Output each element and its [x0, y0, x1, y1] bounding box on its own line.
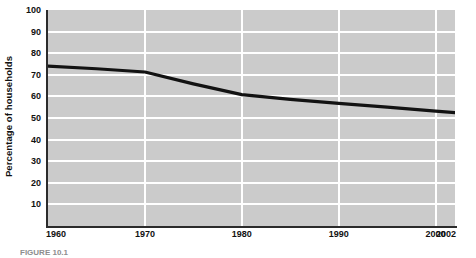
y-axis-tick-label: 20 — [31, 178, 41, 187]
y-axis-title: Percentage of households — [0, 0, 18, 232]
y-axis-spine — [46, 10, 48, 228]
y-axis-tick-label: 30 — [31, 157, 41, 166]
x-axis-tick-label: 1960 — [46, 230, 66, 239]
y-axis-tick-labels: 100908070605040302010 — [18, 10, 44, 226]
plot-area — [48, 10, 455, 226]
line-series-svg — [48, 10, 455, 226]
y-axis-tick-label: 80 — [31, 49, 41, 58]
x-axis-spine — [46, 226, 457, 228]
x-axis-tick-label: 1970 — [135, 230, 155, 239]
x-axis-tick-label: 1980 — [232, 230, 252, 239]
y-axis-tick-label: 50 — [31, 114, 41, 123]
y-axis-title-label: Percentage of households — [4, 55, 15, 176]
y-axis-tick-label: 60 — [31, 92, 41, 101]
y-axis-tick-label: 100 — [26, 6, 41, 15]
y-axis-tick-label: 70 — [31, 70, 41, 79]
figure-caption: FIGURE 10.1 — [20, 248, 220, 258]
x-axis-tick-label: 1990 — [329, 230, 349, 239]
chart-figure: Percentage of households 100908070605040… — [0, 0, 476, 258]
y-axis-tick-label: 90 — [31, 27, 41, 36]
line-series-path — [48, 66, 455, 112]
x-axis-tick-labels: 196019701980199020002002 — [48, 230, 455, 244]
y-axis-tick-label: 40 — [31, 135, 41, 144]
y-axis-tick-label: 10 — [31, 200, 41, 209]
x-axis-tick-label: 2002 — [436, 230, 456, 239]
